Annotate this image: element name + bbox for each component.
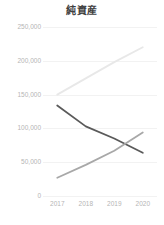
- chart-container: 純資産 250,000200,000150,000100,00050,0000 …: [0, 0, 164, 225]
- y-axis-tick-label: 50,000: [1, 158, 41, 166]
- plot-area: [43, 27, 157, 196]
- series-lines: [43, 27, 157, 196]
- y-axis-tick-label: 250,000: [1, 23, 41, 31]
- y-axis-tick-label: 200,000: [1, 57, 41, 65]
- x-axis: 2017201820192020: [43, 199, 157, 213]
- line-series-medium: [57, 132, 143, 177]
- gridline: [43, 196, 157, 197]
- y-axis-tick-label: 150,000: [1, 91, 41, 99]
- x-axis-tick-label: 2018: [73, 199, 99, 208]
- line-series-dark: [57, 105, 143, 152]
- y-axis: 250,000200,000150,000100,00050,0000: [0, 27, 41, 196]
- line-series-light: [57, 47, 143, 94]
- y-axis-tick-label: 100,000: [1, 124, 41, 132]
- x-axis-tick-label: 2020: [130, 199, 156, 208]
- x-axis-tick-label: 2019: [101, 199, 127, 208]
- x-axis-tick-label: 2017: [44, 199, 70, 208]
- y-axis-tick-label: 0: [1, 192, 41, 200]
- chart-title: 純資産: [0, 5, 164, 17]
